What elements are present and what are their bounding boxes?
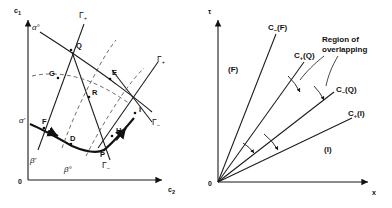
point-label-H: H	[116, 126, 121, 135]
point-label-Q: Q	[76, 41, 82, 50]
point-label-F: F	[42, 117, 47, 126]
point-H-marker	[111, 135, 114, 138]
angle-arc-Q-Q	[264, 134, 278, 150]
x-axis-label: c2	[168, 186, 175, 195]
origin-label: 0	[208, 180, 212, 187]
curve-label-beta-prime: β'	[29, 156, 37, 165]
point-I-marker	[134, 112, 137, 115]
angle-arc-overlap-left	[288, 76, 300, 92]
ray-label-c-plus-Q: C+(Q)	[294, 51, 315, 61]
ray-label-c-plus-I: C+(I)	[348, 109, 365, 119]
point-label-R: R	[92, 88, 98, 97]
annotation-line-2: overlapping	[322, 45, 367, 54]
curve-label-gamma-minus-bottom: Γ−	[102, 160, 110, 171]
curve-label-beta-zero: β°	[63, 165, 73, 174]
tau-axis-label: τ	[208, 8, 212, 15]
point-R-marker	[88, 96, 91, 99]
curve-label-gamma-minus-right: Γ−	[152, 117, 160, 128]
region-label-F: (F)	[228, 65, 239, 74]
dashed-curve-vertical	[62, 40, 116, 148]
curve-label-gamma-plus-top: Γ+	[79, 10, 87, 21]
curve-alpha-prime-bold	[30, 124, 104, 152]
angle-arc-F-Q	[243, 143, 254, 153]
line-gamma-minus-right	[112, 70, 152, 122]
ray-label-c-minus-F: C−(F)	[268, 23, 288, 33]
curve-label-alpha-zero: α°	[32, 23, 41, 32]
point-E-marker	[109, 78, 112, 81]
y-axis-label: c1	[14, 7, 21, 16]
point-label-G: G	[49, 69, 55, 78]
point-label-D: D	[70, 134, 76, 143]
panel-characteristic-diagram: τ x 0 C−(F) C+(Q) C−(Q) C+(	[196, 0, 392, 208]
point-F-marker	[43, 127, 46, 130]
ray-c-plus-Q	[218, 62, 304, 182]
point-label-P: P	[100, 150, 105, 159]
point-label-E: E	[112, 68, 117, 77]
point-Q-marker	[70, 49, 73, 52]
left-diagram-svg: c1 c2 0	[0, 0, 196, 208]
point-label-I: I	[139, 105, 141, 114]
curve-label-alpha-prime: α'	[19, 116, 26, 125]
right-diagram-svg: τ x 0 C−(F) C+(Q) C−(Q) C+(	[196, 0, 392, 208]
annotation-line-1: Region of	[322, 35, 359, 44]
dashed-curve-G-R	[32, 74, 130, 104]
annotation-leader-right	[326, 56, 338, 86]
ray-label-c-minus-Q: C−(Q)	[336, 85, 357, 95]
point-D-marker	[70, 143, 73, 146]
curve-label-gamma-plus-right: Γ+	[157, 54, 165, 65]
panel-concentration-diagram: c1 c2 0	[0, 0, 196, 208]
line-gamma-minus-bottom	[72, 52, 110, 160]
x-axis-label: x	[372, 189, 376, 196]
origin-label: 0	[18, 178, 22, 185]
region-label-I: (I)	[324, 145, 332, 154]
figure-container: c1 c2 0	[0, 0, 392, 208]
angle-arc-overlap-right	[314, 86, 324, 100]
point-G-marker	[57, 77, 60, 80]
ray-c-plus-I	[218, 118, 352, 182]
line-gamma-plus-right	[98, 62, 158, 148]
